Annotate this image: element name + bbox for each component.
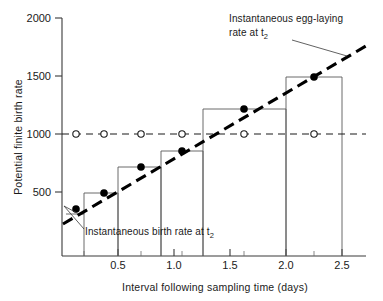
data-point <box>310 73 318 81</box>
chart-canvas: 2000 1500 1000 500 0.5 1.0 1.5 2.0 2.5 <box>0 0 383 301</box>
data-point <box>178 147 186 155</box>
x-tick-label-1-0: 1.0 <box>166 259 181 271</box>
annotation-egg-laying-line1: Instantaneous egg-laying <box>229 13 343 24</box>
x-tick-label-0-5: 0.5 <box>110 259 125 271</box>
annotation-birth-rate-prefix: Instantaneous birth rate at <box>85 226 207 237</box>
open-circle-marker <box>101 131 107 137</box>
data-point <box>240 105 248 113</box>
x-tick-label-2-5: 2.5 <box>334 259 349 271</box>
open-circle-marker <box>73 131 79 137</box>
x-axis-title: Interval following sampling time (days) <box>122 281 308 293</box>
annotation-egg-laying: Instantaneous egg-laying rate at t2 <box>229 13 347 56</box>
y-axis-tick-labels: 2000 1500 1000 500 <box>27 12 51 198</box>
y-tick-label-2000: 2000 <box>27 12 51 24</box>
data-point <box>100 189 108 197</box>
open-circle-marker <box>138 131 144 137</box>
egg-laying-rate-line <box>63 46 366 224</box>
y-tick-label-1000: 1000 <box>27 128 51 140</box>
chart-figure: 2000 1500 1000 500 0.5 1.0 1.5 2.0 2.5 <box>0 0 383 301</box>
step-bar-5 <box>286 77 342 256</box>
filled-data-points <box>72 73 318 213</box>
annotation-egg-laying-line2: rate at t2 <box>229 27 268 41</box>
y-tick-label-500: 500 <box>33 186 51 198</box>
step-bar-3 <box>161 151 203 256</box>
annotation-egg-laying-leader <box>292 40 347 56</box>
annotation-birth-rate-text: Instantaneous birth rate at t2 <box>85 226 214 240</box>
open-circle-marker <box>179 131 185 137</box>
annotation-egg-laying-subscript: 2 <box>264 32 268 41</box>
open-circle-marker <box>241 131 247 137</box>
open-circle-marker <box>311 131 317 137</box>
data-point <box>72 205 80 213</box>
y-axis-title: Potential finite birth rate <box>12 79 24 195</box>
data-point <box>137 163 145 171</box>
x-axis-tick-labels: 0.5 1.0 1.5 2.0 2.5 <box>110 259 349 271</box>
annotation-egg-laying-prefix: rate at <box>229 27 261 38</box>
annotation-birth-rate-subscript: 2 <box>210 231 214 240</box>
y-axis-ticks <box>55 18 62 192</box>
x-axis-ticks <box>118 249 342 256</box>
x-tick-label-1-5: 1.5 <box>222 259 237 271</box>
y-tick-label-1500: 1500 <box>27 70 51 82</box>
x-tick-label-2-0: 2.0 <box>278 259 293 271</box>
